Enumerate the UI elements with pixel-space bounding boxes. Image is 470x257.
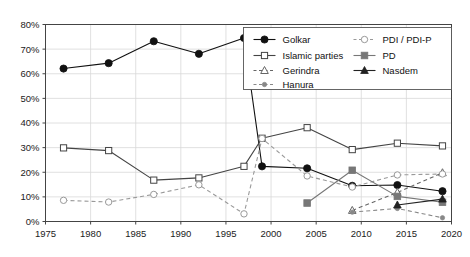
legend-label: Islamic parties — [283, 50, 344, 61]
data-point — [304, 200, 311, 207]
data-point — [241, 163, 247, 169]
x-tick-label: 1990 — [170, 228, 191, 239]
data-point — [196, 175, 202, 181]
legend-marker — [262, 82, 266, 86]
legend-marker — [261, 36, 268, 43]
series-line — [307, 170, 442, 203]
legend-label: PD — [383, 50, 396, 61]
data-point — [394, 172, 400, 178]
x-tick-label: 2010 — [351, 228, 372, 239]
y-axis-tick-labels: 0%10%20%30%40%50%60%70%80% — [20, 19, 45, 227]
data-point — [304, 125, 310, 131]
series-line — [64, 139, 443, 214]
legend-label: Golkar — [283, 34, 311, 45]
legend-label: Gerindra — [283, 65, 321, 76]
data-point — [60, 145, 66, 151]
data-point — [440, 216, 444, 220]
x-tick-label: 1985 — [125, 228, 146, 239]
y-tick-label: 60% — [20, 68, 40, 79]
data-point — [349, 184, 355, 190]
legend-label: Nasdem — [383, 65, 418, 76]
data-point — [304, 173, 310, 179]
x-axis-tick-labels: 1975198019851990199520002005201020152020 — [35, 222, 462, 239]
series-pd — [304, 167, 446, 206]
data-point — [196, 182, 202, 188]
legend-marker — [361, 52, 368, 59]
x-tick-label: 1995 — [215, 228, 236, 239]
data-point — [439, 188, 446, 195]
data-point — [394, 140, 400, 146]
data-point — [394, 193, 401, 200]
data-point — [151, 191, 157, 197]
legend-label: PDI / PDI-P — [383, 34, 432, 45]
y-tick-label: 70% — [20, 44, 40, 55]
data-point — [439, 171, 445, 177]
data-point — [60, 65, 67, 72]
data-point — [258, 163, 265, 170]
series-line — [397, 199, 442, 205]
data-point — [349, 167, 356, 174]
chart-canvas: 0%10%20%30%40%50%60%70%80% 1975198019851… — [0, 0, 470, 257]
data-point — [304, 165, 311, 172]
data-point — [105, 199, 111, 205]
x-tick-label: 2005 — [306, 228, 327, 239]
data-point — [60, 197, 66, 203]
legend-marker — [261, 52, 267, 58]
x-tick-label: 2020 — [441, 228, 462, 239]
data-point — [150, 38, 157, 45]
y-tick-label: 20% — [20, 167, 40, 178]
data-point — [105, 60, 112, 67]
data-point — [241, 211, 247, 217]
data-point — [151, 177, 157, 183]
y-tick-label: 40% — [20, 117, 40, 128]
data-point — [439, 195, 447, 202]
data-point — [195, 50, 202, 57]
x-tick-label: 1975 — [35, 228, 56, 239]
data-point — [350, 210, 354, 214]
election-share-line-chart: 0%10%20%30%40%50%60%70%80% 1975198019851… — [0, 0, 470, 257]
y-tick-label: 50% — [20, 93, 40, 104]
legend-marker — [361, 36, 367, 42]
x-tick-label: 2000 — [260, 228, 281, 239]
data-point — [259, 135, 265, 141]
data-point — [106, 147, 112, 153]
legend-label: Hanura — [283, 79, 315, 90]
y-tick-label: 10% — [20, 191, 40, 202]
x-tick-label: 1980 — [80, 228, 101, 239]
y-tick-label: 80% — [20, 19, 40, 30]
x-tick-label: 2015 — [396, 228, 417, 239]
y-tick-label: 30% — [20, 142, 40, 153]
data-point — [349, 146, 355, 152]
data-point — [439, 143, 445, 149]
legend: GolkarIslamic partiesGerindraHanuraPDI /… — [244, 28, 452, 90]
y-tick-label: 0% — [26, 216, 40, 227]
